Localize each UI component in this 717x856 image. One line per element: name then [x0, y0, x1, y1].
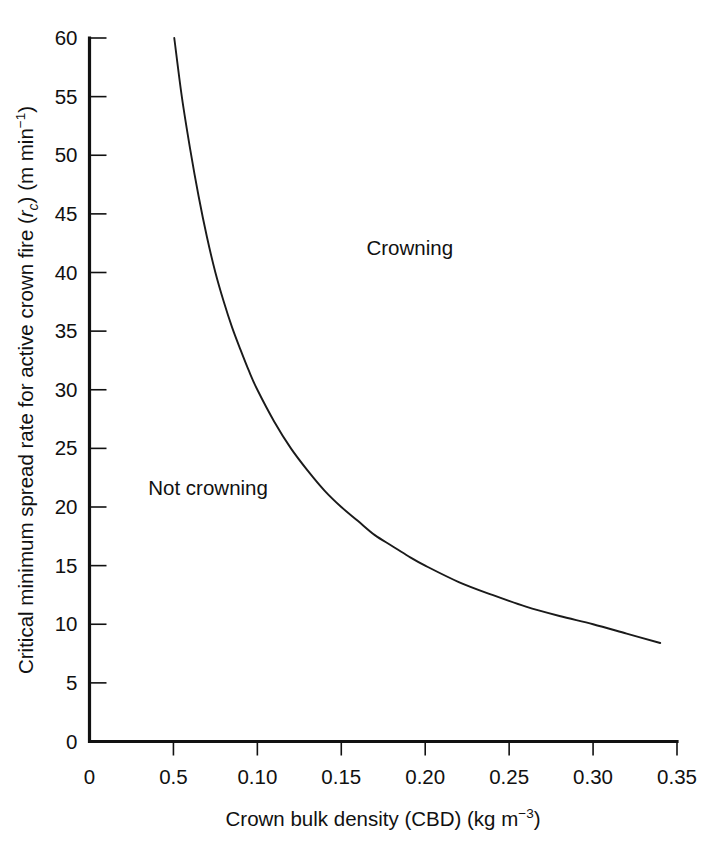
crown-fire-threshold-chart: 051015202530354045505560 00.50.100.150.2…	[0, 0, 717, 856]
y-tick-label-25: 25	[55, 436, 78, 459]
y-axis-title: Critical minimum spread rate for active …	[13, 106, 41, 674]
y-tick-label-20: 20	[55, 495, 78, 518]
figure-container: 051015202530354045505560 00.50.100.150.2…	[0, 0, 717, 856]
x-tick-label-0.5: 0.5	[159, 765, 188, 788]
y-tick-label-30: 30	[55, 378, 78, 401]
x-tick-label-0.35: 0.35	[657, 765, 697, 788]
y-tick-label-10: 10	[55, 612, 78, 635]
chart-background	[0, 0, 717, 856]
y-tick-label-55: 55	[55, 85, 78, 108]
y-tick-label-50: 50	[55, 143, 78, 166]
x-tick-label-0.25: 0.25	[489, 765, 529, 788]
x-tick-label-0.15: 0.15	[321, 765, 361, 788]
y-tick-label-60: 60	[55, 26, 78, 49]
y-tick-label-15: 15	[55, 554, 78, 577]
y-tick-label-45: 45	[55, 202, 78, 225]
x-axis-title: Crown bulk density (CBD) (kg m−3)	[226, 806, 541, 830]
x-tick-label-0.10: 0.10	[237, 765, 277, 788]
y-tick-label-0: 0	[66, 730, 77, 753]
y-tick-label-40: 40	[55, 261, 78, 284]
y-tick-label-35: 35	[55, 319, 78, 342]
annotation-crowning: Crowning	[366, 236, 453, 259]
x-tick-label-0: 0	[84, 765, 95, 788]
annotation-not-crowning: Not crowning	[148, 476, 268, 499]
y-tick-label-5: 5	[66, 671, 77, 694]
x-tick-label-0.30: 0.30	[573, 765, 613, 788]
x-tick-label-0.20: 0.20	[405, 765, 445, 788]
